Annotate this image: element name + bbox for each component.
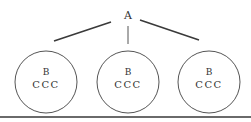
node-sub: CCC bbox=[195, 79, 222, 90]
root-label: A bbox=[123, 9, 133, 22]
node-label: B bbox=[206, 67, 213, 77]
node-sub: CCC bbox=[32, 79, 59, 90]
child-node-3: B CCC bbox=[178, 51, 240, 113]
edge-left bbox=[54, 22, 111, 41]
node-sub: CCC bbox=[114, 79, 141, 90]
node-label: B bbox=[43, 67, 50, 77]
bottom-rule bbox=[0, 116, 251, 118]
node-label: B bbox=[125, 67, 132, 77]
tree-diagram: A B CCC B CCC B CCC bbox=[0, 0, 251, 122]
edge-right bbox=[140, 20, 199, 40]
child-node-1: B CCC bbox=[15, 51, 77, 113]
child-node-2: B CCC bbox=[97, 51, 159, 113]
